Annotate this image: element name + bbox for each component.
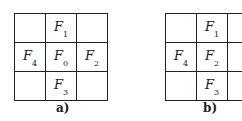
cell-label: F0 bbox=[54, 48, 68, 66]
cell-label: F3 bbox=[205, 77, 219, 95]
grid-cell: F2 bbox=[77, 43, 108, 72]
cell-label: F1 bbox=[205, 19, 219, 37]
grid-cell bbox=[228, 14, 242, 43]
grid-cell: F1 bbox=[46, 14, 77, 43]
grid-cell: F3 bbox=[197, 72, 228, 101]
grid-cell: F2 bbox=[197, 43, 228, 72]
cell-label: F3 bbox=[54, 77, 68, 95]
grid-cell: F3 bbox=[46, 72, 77, 101]
caption-panel-a: a) bbox=[56, 101, 69, 115]
grid-cell: F1 bbox=[197, 14, 228, 43]
grid-cell: F0 bbox=[46, 43, 77, 72]
grid-panel-b: F1F4F2F3 bbox=[165, 13, 242, 101]
grid-cell bbox=[228, 43, 242, 72]
cell-label: F2 bbox=[205, 48, 219, 66]
cell-label: F2 bbox=[85, 48, 99, 66]
grid-cell bbox=[228, 72, 242, 101]
cell-label: F4 bbox=[174, 48, 188, 66]
cell-label: F4 bbox=[23, 48, 37, 66]
grid-panel-a: F1F4F0F2F3 bbox=[14, 13, 108, 101]
grid-cell: F4 bbox=[15, 43, 46, 72]
caption-panel-b: b) bbox=[203, 101, 217, 115]
grid-cell bbox=[77, 14, 108, 43]
grid-cell bbox=[15, 14, 46, 43]
grid-cell bbox=[166, 72, 197, 101]
grid-cell bbox=[166, 14, 197, 43]
grid-cell: F4 bbox=[166, 43, 197, 72]
grid-cell bbox=[77, 72, 108, 101]
grid-cell bbox=[15, 72, 46, 101]
cell-label: F1 bbox=[54, 19, 68, 37]
